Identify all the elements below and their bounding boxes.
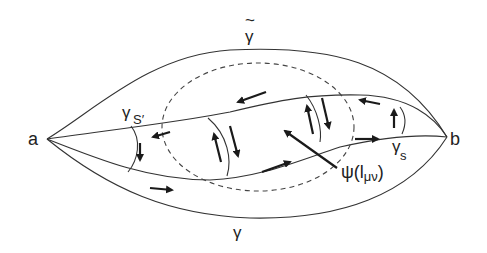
transversal-left [128,126,138,172]
psi-symbol: ψ( [341,162,360,182]
arrow-top-right-left [360,100,380,104]
inner-upper-curve [47,95,447,139]
arrow-top-left [238,92,266,102]
gamma-s-prime-subscript: S′ [133,112,145,127]
psi-label: ψ(lμν) [341,162,384,184]
gamma-label: γ [233,223,242,242]
point-a-label: a [28,129,39,149]
gamma-tilde-label: γ [245,27,254,46]
outer-upper-curve [47,49,447,139]
arrow-lower-right [150,188,172,190]
transversal-far-right [400,107,405,134]
transversal-middle [208,118,229,176]
path-diagram: a b ~ γ γ γ S′ γ s ψ(lμν) [0,0,487,253]
inner-lower-curve [47,136,447,180]
gamma-s-subscript: s [400,148,407,163]
arrow-upper-left [153,132,170,137]
arrow-psi-pointer [285,131,337,168]
point-b-label: b [450,129,460,149]
psi-sub-munu: μν [364,169,378,184]
gamma-s-prime-label: γ [122,103,131,122]
outer-lower-curve [47,137,447,218]
transversal-right [306,95,320,142]
psi-close: ) [378,162,384,182]
arrow-right-up [307,106,313,134]
arrow-middle-down [230,126,238,156]
dashed-region-circle [162,63,354,191]
arrow-middle-up [214,134,221,162]
arrow-right-down [322,98,329,128]
arrow-bottom-right [262,162,290,172]
